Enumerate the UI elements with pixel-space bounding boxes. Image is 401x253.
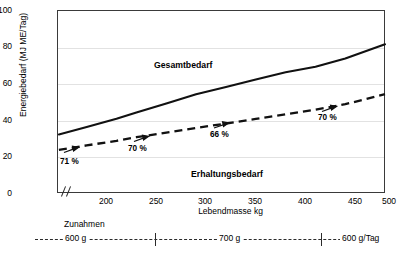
x-tick-400: 400 — [285, 196, 325, 206]
y-axis-title: Energiebedarf (MJ ME/Tag) — [18, 0, 28, 140]
x-tick-350: 350 — [235, 196, 275, 206]
plot-area — [57, 10, 385, 193]
growth-divider-1 — [155, 233, 156, 246]
x-tick-500: 500 — [369, 196, 401, 206]
y-tick-60: 60 — [0, 79, 12, 88]
annotation-70-percent-right: 70 % — [318, 113, 337, 122]
annotation-70-percent-left: 70 % — [128, 144, 147, 153]
gridline-60 — [58, 84, 384, 85]
x-tick-250: 250 — [136, 196, 176, 206]
label-erhaltungsbedarf: Erhaltungsbedarf — [191, 169, 263, 179]
annotation-66-percent: 66 % — [210, 130, 229, 139]
x-axis-title-text: Lebendmasse kg — [198, 206, 263, 216]
x-tick-200: 200 — [86, 196, 126, 206]
y-tick-20: 20 — [0, 152, 12, 161]
x-axis-title: Lebendmasse kg — [0, 206, 401, 216]
chart-container: Energiebedarf (MJ ME/Tag) 100 80 60 40 2… — [0, 0, 401, 253]
gridline-20 — [58, 157, 384, 158]
y-tick-80: 80 — [0, 42, 12, 51]
gridline-80 — [58, 48, 384, 49]
growth-band: 600 g 700 g 600 g/Tag — [35, 233, 401, 247]
y-tick-0: 0 — [0, 189, 12, 198]
y-tick-40: 40 — [0, 116, 12, 125]
x-tick-300: 300 — [185, 196, 225, 206]
label-gesamtbedarf: Gesamtbedarf — [154, 60, 212, 70]
x-axis-break-icon — [60, 186, 74, 198]
growth-band-title: Zunahmen — [64, 219, 105, 229]
y-tick-100: 100 — [0, 6, 12, 15]
growth-label-700g: 700 g — [217, 233, 242, 243]
growth-label-600g: 600 g — [63, 233, 88, 243]
annotation-71-percent: 71 % — [60, 157, 79, 166]
growth-divider-2 — [321, 233, 322, 246]
growth-label-600g-tag: 600 g/Tag — [340, 233, 381, 243]
